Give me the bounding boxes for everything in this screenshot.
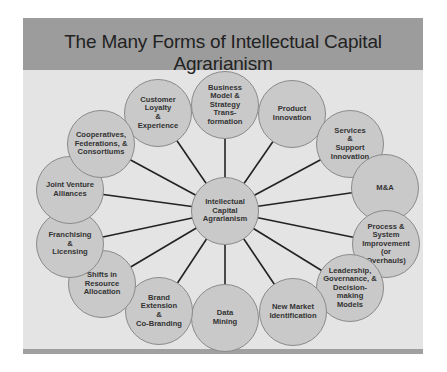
spoke-node-label: Business Model & Strategy Trans- formati…: [204, 84, 245, 127]
spoke-node-label: New Market Identification: [266, 303, 319, 320]
center-node-label: Intellectual Capital Agrarianism: [200, 198, 250, 224]
center-node: Intellectual Capital Agrarianism: [191, 177, 259, 245]
spoke-node: New Market Identification: [259, 278, 327, 346]
spoke-node-label: Joint Venture Alliances: [43, 181, 97, 198]
spoke-node-label: Leadership, Governance, & Decision-makin…: [317, 267, 383, 310]
spoke-node-label: Cooperatives, Federations, & Consortiums: [72, 131, 131, 157]
spoke-node-label: Customer Loyalty & Experience: [135, 96, 182, 130]
spoke-node-label: Data Mining: [210, 309, 240, 326]
spoke-node-label: Shifts in Resource Allocation: [81, 271, 124, 297]
spoke-node: Cooperatives, Federations, & Consortiums: [67, 110, 135, 178]
spoke-node: Business Model & Strategy Trans- formati…: [191, 71, 259, 139]
spoke-node: Data Mining: [191, 284, 259, 352]
spoke-node-label: Services & Support Innovation: [328, 127, 372, 161]
spoke-node-label: M&A: [373, 184, 396, 193]
spoke-node-label: Product Innovation: [270, 105, 314, 122]
spoke-node-label: Franchising & Licensing: [45, 231, 94, 257]
spoke-node-label: Brand Extension & Co-Branding: [126, 294, 192, 328]
